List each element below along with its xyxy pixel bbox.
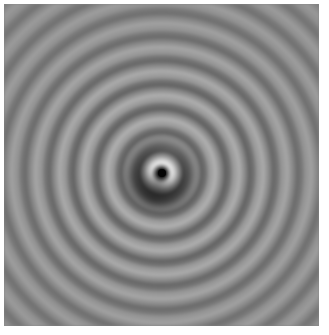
center-dot xyxy=(158,169,166,177)
ring-pattern-layer xyxy=(4,4,319,326)
ring-pattern-image xyxy=(4,4,319,326)
